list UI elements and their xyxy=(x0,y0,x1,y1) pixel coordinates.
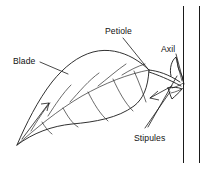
vein-upper-5 xyxy=(122,64,145,75)
stipule-pointer-arrow-line xyxy=(150,86,172,98)
blade-upper-margin xyxy=(17,50,149,145)
stipule-detail-line xyxy=(176,58,182,81)
leaf-anatomy-figure: Blade Petiole Axil Stipules xyxy=(0,0,214,169)
label-axil: Axil xyxy=(161,44,175,54)
stem-node-line xyxy=(171,88,184,93)
axil-leader-group xyxy=(176,54,184,84)
stipule-pointer-arrow-group xyxy=(150,86,172,100)
leaf-diagram-canvas: Blade Petiole Axil Stipules xyxy=(0,0,214,169)
vein-upper-2 xyxy=(48,85,71,116)
petiole-leader-line xyxy=(123,38,148,69)
petiole-upper-edge xyxy=(149,70,180,82)
stipules-leader-line-upper xyxy=(148,76,177,127)
blade-leader-group xyxy=(40,62,68,74)
blade-lower-margin xyxy=(17,70,149,145)
petiole-leader-group xyxy=(123,38,148,69)
leaf-blade-group xyxy=(17,50,149,145)
leaf-veins-upper-group xyxy=(31,64,145,131)
stipule-lower xyxy=(168,87,182,99)
vein-upper-3 xyxy=(70,73,99,102)
vein-upper-1 xyxy=(31,103,50,131)
stipules-leader-group xyxy=(145,76,177,128)
stipules-leader-line-lower xyxy=(145,92,170,128)
stem-group xyxy=(184,6,200,163)
axil-leader-line xyxy=(176,54,184,84)
vein-lower-3 xyxy=(88,92,108,121)
blade-leader-line xyxy=(40,62,68,74)
label-stipules: Stipules xyxy=(134,133,165,143)
leaf-veins-lower-group xyxy=(42,71,146,134)
vein-lower-4 xyxy=(113,79,133,111)
vein-lower-5 xyxy=(134,71,146,102)
label-petiole: Petiole xyxy=(105,26,132,36)
label-blade: Blade xyxy=(13,56,36,66)
